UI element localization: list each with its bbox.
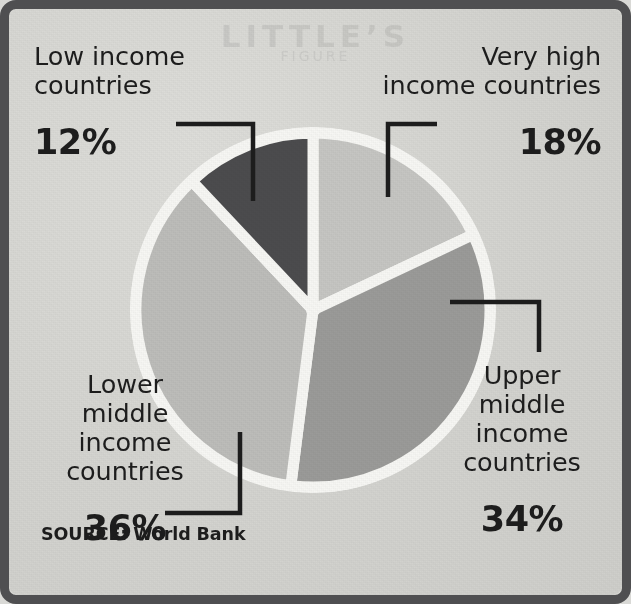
label-very-high-income-percent: 18% xyxy=(351,123,601,163)
label-upper-middle-income-name: Upper middle income countries xyxy=(437,361,607,477)
infographic-page: LITTLE’S FIGURE Very high income countri… xyxy=(0,0,631,604)
label-very-high-income-name: Very high income countries xyxy=(351,42,601,100)
label-upper-middle-income-percent: 34% xyxy=(437,500,607,540)
label-low-income-countries: Low income countries 12% xyxy=(34,24,234,181)
label-lower-middle-income-name: Lower middle income countries xyxy=(50,370,200,486)
source-attribution: SOURCE: World Bank xyxy=(41,524,245,544)
label-low-income-name: Low income countries xyxy=(34,42,234,100)
label-low-income-percent: 12% xyxy=(34,123,234,163)
label-upper-middle-income-countries: Upper middle income countries 34% xyxy=(437,343,607,558)
pie-center-hub xyxy=(306,303,320,317)
label-very-high-income-countries: Very high income countries 18% xyxy=(351,24,601,181)
